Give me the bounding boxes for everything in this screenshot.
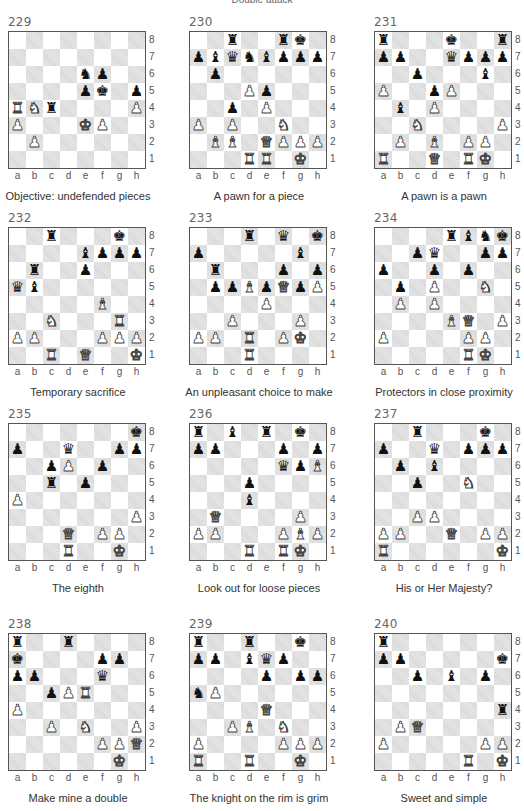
square-c3: ♛ [409,719,426,736]
square-c5: ♟ [409,475,426,492]
rank-label: 5 [330,278,340,295]
square-e7 [258,245,275,262]
rank-label: 7 [330,48,340,65]
square-e1: ♜ [258,151,275,168]
square-b6: ♜ [26,262,43,279]
square-e3: ♚ [77,117,94,134]
square-a2: ♟ [375,330,392,347]
square-e5: ♜ [77,685,94,702]
square-b5 [26,685,43,702]
square-c5 [224,83,241,100]
square-d2 [60,736,77,753]
rank-label: 6 [330,457,340,474]
square-d6 [241,66,258,83]
white-pawn-icon: ♟ [45,719,58,736]
black-pawn-icon: ♟ [96,458,109,475]
square-e7 [258,441,275,458]
square-a1 [375,347,392,364]
black-bishop-icon: ♝ [445,668,458,685]
white-queen-icon: ♛ [260,134,273,151]
rank-label: 5 [149,474,159,491]
file-label: d [426,170,443,181]
file-label: h [494,772,511,783]
square-c6: ♟ [409,668,426,685]
square-c1 [409,347,426,364]
square-f1 [94,151,111,168]
rank-label: 8 [330,227,340,244]
diagram-caption: His or Her Majesty? [364,582,524,594]
file-label: f [94,772,111,783]
square-d3 [60,509,77,526]
black-pawn-icon: ♟ [277,441,290,458]
rank-label: 3 [330,508,340,525]
square-b6 [26,66,43,83]
square-g1: ♚ [477,347,494,364]
square-c7 [409,49,426,66]
square-b3 [26,719,43,736]
square-b5 [26,83,43,100]
file-label: e [77,772,94,783]
square-f6: ♛ [275,458,292,475]
square-b5 [207,83,224,100]
white-bishop-icon: ♝ [243,279,256,296]
square-h8 [494,634,511,651]
square-h8: ♚ [128,424,145,441]
black-rook-icon: ♜ [377,32,390,49]
square-a8 [190,32,207,49]
square-f6: ♟ [94,458,111,475]
square-a4: ♟ [9,492,26,509]
white-rook-icon: ♜ [462,151,475,168]
square-a1 [190,151,207,168]
square-g3 [477,719,494,736]
file-label: d [241,772,258,783]
square-a1 [190,347,207,364]
square-c5 [409,685,426,702]
square-f6 [460,66,477,83]
square-d3 [426,117,443,134]
rank-label: 6 [330,667,340,684]
square-f5 [275,475,292,492]
square-e8 [443,424,460,441]
square-f3 [460,509,477,526]
rank-label: 2 [149,329,159,346]
square-h6 [494,66,511,83]
black-pawn-icon: ♟ [96,66,109,83]
square-d5: ♟ [241,83,258,100]
rank-label: 6 [149,261,159,278]
square-e5: ♟ [258,83,275,100]
file-label: c [43,772,60,783]
square-f6: ♟ [460,262,477,279]
square-c7 [43,49,60,66]
square-f7: ♟ [94,651,111,668]
square-d5 [426,685,443,702]
black-bishop-icon: ♝ [394,100,407,117]
white-pawn-icon: ♟ [428,100,441,117]
square-g5 [477,475,494,492]
square-a8 [375,228,392,245]
square-c6 [224,458,241,475]
square-h3 [494,509,511,526]
white-pawn-icon: ♟ [462,134,475,151]
square-g4 [477,100,494,117]
square-a4 [190,296,207,313]
white-king-icon: ♚ [294,330,307,347]
white-pawn-icon: ♟ [377,526,390,543]
diagram-caption: Objective: undefended pieces [0,190,158,202]
square-g1: ♚ [111,753,128,770]
square-c3: ♟ [409,509,426,526]
square-b5: ♟ [392,279,409,296]
square-b2 [392,330,409,347]
white-pawn-icon: ♟ [28,134,41,151]
square-g7: ♟ [477,441,494,458]
black-pawn-icon: ♟ [311,668,324,685]
square-a5: ♛ [9,279,26,296]
file-label: f [94,366,111,377]
white-bishop-icon: ♝ [96,296,109,313]
black-queen-icon: ♛ [11,279,24,296]
white-pawn-icon: ♟ [496,313,509,330]
square-h8: ♚ [309,228,326,245]
square-c3 [224,509,241,526]
black-pawn-icon: ♟ [260,279,273,296]
square-b8 [26,32,43,49]
rank-label: 1 [515,752,524,769]
